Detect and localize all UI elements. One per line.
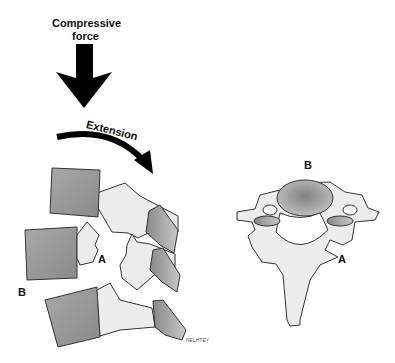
artist-signature: NELHTEY (186, 337, 209, 343)
compressive-force-label-line1: Compressive (52, 17, 121, 29)
extension-arrow-icon (57, 134, 153, 174)
axial-label-b: B (304, 159, 312, 171)
axial-vertebra (237, 180, 379, 326)
lateral-vertebra-bottom (45, 283, 186, 347)
lateral-label-a: A (98, 253, 106, 265)
lateral-label-b: B (18, 286, 26, 298)
spine-illustration (0, 0, 395, 363)
axial-label-a: A (338, 253, 346, 265)
compressive-force-label-line2: force (72, 30, 99, 42)
compressive-force-arrow-icon (56, 44, 112, 108)
